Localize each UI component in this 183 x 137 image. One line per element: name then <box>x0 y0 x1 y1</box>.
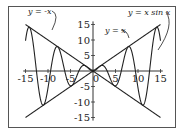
arrow-neg-x <box>52 11 56 30</box>
arrow-xsinx <box>158 12 169 50</box>
x-tick-label: -15 <box>17 73 33 84</box>
x-tick-label: -10 <box>40 73 56 84</box>
y-tick-label: 15 <box>77 19 90 30</box>
plot-area: -15-10-505101515105-5-10-15y = -xy = xy … <box>0 0 183 137</box>
y-tick-label: -10 <box>74 97 90 108</box>
y-tick-label: 5 <box>84 50 90 61</box>
y-tick-label: -15 <box>74 112 90 123</box>
x-tick-label: 10 <box>132 73 145 84</box>
y-tick-label: 10 <box>77 35 90 46</box>
annotation-neg-x: y = -x <box>27 7 52 16</box>
annotation-xsinx: y = x sin x <box>127 8 171 17</box>
y-tick-label: -5 <box>80 81 90 92</box>
x-tick-label: 15 <box>154 73 167 84</box>
